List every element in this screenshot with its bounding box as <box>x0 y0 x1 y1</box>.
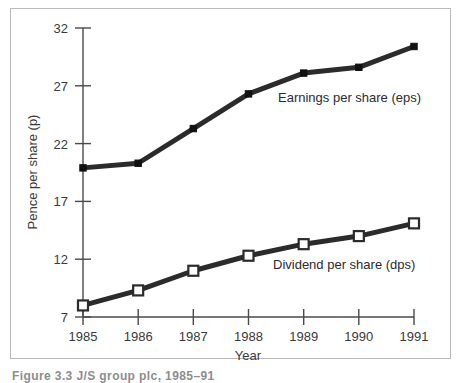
y-tick-label-27: 27 <box>54 79 68 94</box>
x-tick-label-1991: 1991 <box>400 329 429 344</box>
data-point-marker <box>356 64 362 70</box>
y-tick-label-32: 32 <box>54 21 68 36</box>
y-tick-label-12: 12 <box>54 252 68 267</box>
data-point-marker <box>78 300 88 310</box>
line-chart: 32 27 22 17 12 7 1985 1986 1987 1988 198… <box>11 9 452 360</box>
data-point-marker <box>354 231 364 241</box>
data-point-marker <box>244 251 254 261</box>
y-tick-label-17: 17 <box>54 194 68 209</box>
x-tick-label-1985: 1985 <box>69 329 98 344</box>
x-tick-label-1987: 1987 <box>179 329 208 344</box>
data-point-marker <box>300 70 306 76</box>
data-point-marker <box>245 91 251 97</box>
data-point-marker <box>135 160 141 166</box>
x-tick-label-1989: 1989 <box>289 329 318 344</box>
data-point-marker <box>80 165 86 171</box>
figure-caption: Figure 3.3 J/S group plc, 1985–91 <box>12 369 452 383</box>
x-tick-label-1988: 1988 <box>234 329 263 344</box>
series-eps <box>80 43 417 171</box>
data-point-marker <box>299 239 309 249</box>
data-point-marker <box>190 125 196 131</box>
x-tick-label-1990: 1990 <box>344 329 373 344</box>
series-annotation-eps: Earnings per share (eps) <box>278 90 421 105</box>
y-axis-title: Pence per share (p) <box>25 115 40 230</box>
data-point-marker <box>133 285 143 295</box>
x-axis-title: Year <box>235 348 262 360</box>
y-tick-label-22: 22 <box>54 137 68 152</box>
x-tick-label-1986: 1986 <box>124 329 153 344</box>
y-tick-label-7: 7 <box>61 310 68 325</box>
series-annotation-dps: Dividend per share (dps) <box>273 257 415 272</box>
figure-frame: 32 27 22 17 12 7 1985 1986 1987 1988 198… <box>10 8 451 359</box>
data-point-marker <box>188 266 198 276</box>
series-line <box>83 46 414 167</box>
data-point-marker <box>409 218 419 228</box>
data-point-marker <box>411 43 417 49</box>
